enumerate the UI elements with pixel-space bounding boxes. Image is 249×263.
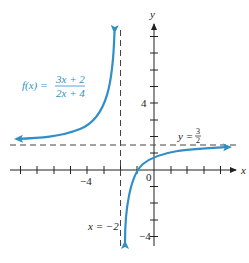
svg-text:f(x) =: f(x) = — [22, 79, 47, 92]
y-axis — [150, 24, 158, 246]
right-branch-curve — [125, 147, 230, 242]
x-tick-label-neg4: −4 — [80, 175, 92, 187]
svg-text:2x + 4: 2x + 4 — [56, 87, 85, 99]
y-tick-label-4: 4 — [141, 97, 147, 109]
function-label: f(x) = 3x + 2 2x + 4 — [22, 73, 85, 99]
x-axis-label: x — [240, 164, 246, 176]
svg-text:y =: y = — [177, 130, 193, 142]
origin-label: 0 — [146, 171, 152, 183]
svg-text:3x + 2: 3x + 2 — [55, 73, 85, 85]
vertical-asymptote-label: x = −2 — [87, 220, 119, 232]
x-axis — [10, 166, 236, 174]
horizontal-asymptote-label: y = 3 2 — [177, 127, 201, 145]
y-tick-label-neg4: −4 — [139, 230, 151, 242]
svg-text:2: 2 — [196, 136, 200, 145]
svg-text:3: 3 — [196, 127, 200, 136]
y-axis-label: y — [149, 8, 155, 20]
rational-function-graph: x y −4 0 4 −4 x = −2 y = 3 2 f(x) = 3x +… — [0, 0, 249, 263]
